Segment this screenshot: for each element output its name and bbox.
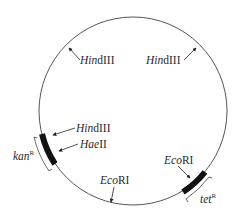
label-tetR-gene: tetR (200, 192, 217, 205)
arrow-haeII-kan (59, 144, 78, 151)
arrow-ecoRI-tet (178, 166, 190, 178)
arrow-hindIII-kan (53, 128, 75, 135)
label-ecoRI-tet: EcoRI (163, 154, 194, 166)
label-hindIII-kan: HindIII (75, 122, 111, 134)
label-ecoRI-bottom: EcoRI (99, 174, 130, 186)
arrow-ecoRI-bottom (111, 187, 114, 202)
label-hindIII-upper-left: HindIII (79, 54, 115, 66)
arrow-hindIII-upper-right (184, 48, 196, 60)
label-haeII-kan: HaeII (79, 138, 107, 150)
label-hindIII-upper-right: HindIII (145, 54, 181, 66)
tetR-gene-block (183, 172, 205, 192)
label-kanR-gene: kanR (13, 149, 35, 162)
plasmid-diagram: HindIII HindIII HindIII HaeII EcoRI EcoR… (0, 0, 237, 217)
arrow-hindIII-upper-left (69, 48, 80, 60)
kanR-gene-block (42, 134, 55, 164)
